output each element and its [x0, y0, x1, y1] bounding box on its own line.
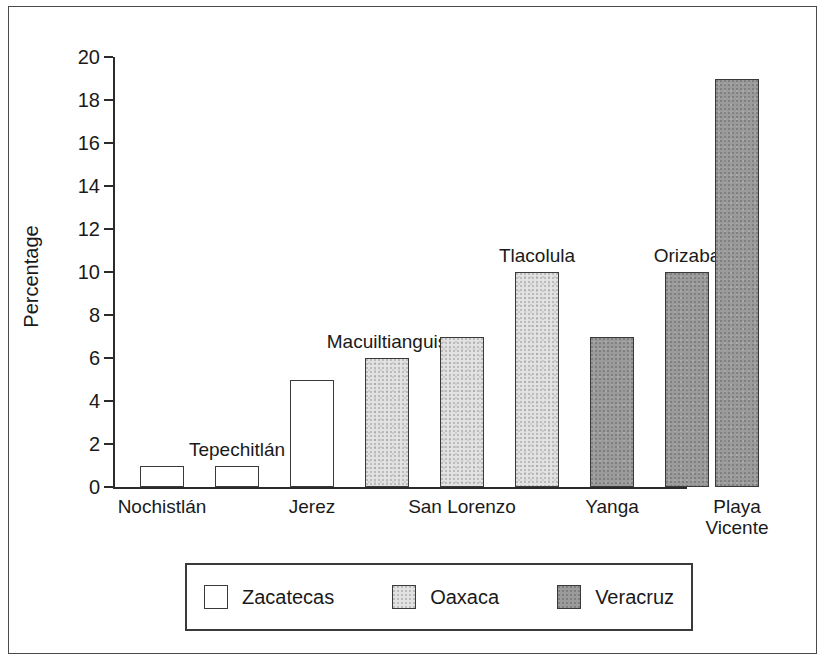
bar-tepechitl-n — [215, 466, 259, 488]
bar-annotation-label: Tepechitlán — [175, 440, 299, 459]
y-axis-tick-mark — [104, 486, 113, 488]
y-axis-tick-mark — [104, 228, 113, 230]
bar-jerez — [290, 380, 334, 488]
legend-label: Veracruz — [595, 586, 674, 609]
figure-frame: 20181614121086420 Percentage Tepechitlán… — [8, 6, 817, 654]
page-bottom-margin — [0, 660, 827, 668]
x-axis-tick-label: Jerez — [242, 496, 382, 517]
y-axis-tick-labels: 20181614121086420 — [54, 7, 100, 655]
x-axis-tick-label: Yanga — [542, 496, 682, 517]
y-axis-tick-label: 20 — [60, 47, 100, 67]
x-axis-tick-label: Nochistlán — [92, 496, 232, 517]
y-axis-tick-label: 0 — [60, 477, 100, 497]
y-axis-tick-label: 16 — [60, 133, 100, 153]
y-axis-tick-label: 8 — [60, 305, 100, 325]
y-axis-tick-mark — [104, 314, 113, 316]
bar-macuiltianguis — [365, 358, 409, 487]
bar-san-lorenzo — [440, 337, 484, 488]
legend-entry-veracruz: Veracruz — [557, 585, 674, 609]
y-axis-tick-mark — [104, 271, 113, 273]
y-axis-tick-mark — [104, 357, 113, 359]
y-axis-tick-label: 12 — [60, 219, 100, 239]
y-axis-tick-mark — [104, 56, 113, 58]
bar-orizaba — [665, 272, 709, 487]
y-axis-tick-mark — [104, 185, 113, 187]
y-axis-tick-label: 14 — [60, 176, 100, 196]
plot-area: 20181614121086420 Percentage Tepechitlán… — [9, 7, 818, 655]
y-axis-tick-mark — [104, 99, 113, 101]
y-axis-tick-mark — [104, 443, 113, 445]
bar-annotation-label: Tlacolula — [475, 246, 599, 265]
x-axis-line — [113, 487, 687, 489]
y-axis-tick-label: 6 — [60, 348, 100, 368]
bar-yanga — [590, 337, 634, 488]
legend-swatch-icon — [204, 585, 228, 609]
legend-entry-zacatecas: Zacatecas — [204, 585, 334, 609]
y-axis-tick-mark — [104, 142, 113, 144]
legend-swatch-icon — [557, 585, 581, 609]
legend-label: Oaxaca — [430, 586, 499, 609]
bar-tlacolula — [515, 272, 559, 487]
chart-legend: ZacatecasOaxacaVeracruz — [185, 563, 693, 631]
x-axis-tick-label: San Lorenzo — [392, 496, 532, 517]
y-axis-tick-label: 2 — [60, 434, 100, 454]
y-axis-line — [113, 57, 115, 489]
y-axis-tick-label: 18 — [60, 90, 100, 110]
y-axis-title: Percentage — [20, 207, 43, 347]
bar-nochistl-n — [140, 466, 184, 488]
y-axis-tick-label: 4 — [60, 391, 100, 411]
legend-entry-oaxaca: Oaxaca — [392, 585, 499, 609]
y-axis-tick-mark — [104, 400, 113, 402]
legend-swatch-icon — [392, 585, 416, 609]
x-axis-tick-label: Playa Vicente — [667, 496, 807, 539]
y-axis-tick-label: 10 — [60, 262, 100, 282]
bar-playa-vicente — [715, 79, 759, 488]
legend-label: Zacatecas — [242, 586, 334, 609]
